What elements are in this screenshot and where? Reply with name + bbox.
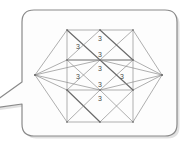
edge-weight-label: 3 — [76, 43, 80, 50]
graph-vertex-left-apex — [34, 74, 36, 76]
graph-vertex-grid-row1-col1 — [66, 29, 68, 31]
graph-vertex-grid-row1-col3 — [132, 29, 134, 31]
graph-vertex-grid-row3-col2 — [99, 89, 101, 91]
graph-vertex-grid-row1-col2 — [99, 29, 101, 31]
callout-bubble — [0, 10, 177, 136]
edge-weight-label: 3 — [98, 65, 102, 72]
graph-vertex-grid-row2-col3 — [132, 59, 134, 61]
edge-weight-label: 3 — [98, 95, 102, 102]
edge-weight-label: 3 — [98, 35, 102, 42]
edge-weight-label: 3 — [120, 73, 124, 80]
graph-vertex-grid-row4-col1 — [66, 121, 68, 123]
edge-weight-label: 3 — [98, 51, 102, 58]
edge-weight-label: 3 — [76, 73, 80, 80]
diagram-canvas — [0, 0, 187, 148]
graph-vertex-grid-row3-col1 — [66, 89, 68, 91]
graph-vertex-grid-row3-col3 — [132, 89, 134, 91]
graph-vertex-grid-row2-col1 — [66, 59, 68, 61]
diagram-root: 33333333 — [0, 0, 187, 148]
callout-bubble-group — [0, 10, 180, 139]
edge-weight-label: 3 — [98, 81, 102, 88]
graph-vertex-grid-row2-col2 — [99, 59, 101, 61]
graph-vertex-grid-row4-col2 — [99, 121, 101, 123]
graph-vertex-grid-row4-col3 — [132, 121, 134, 123]
graph-vertex-right-apex — [161, 74, 163, 76]
